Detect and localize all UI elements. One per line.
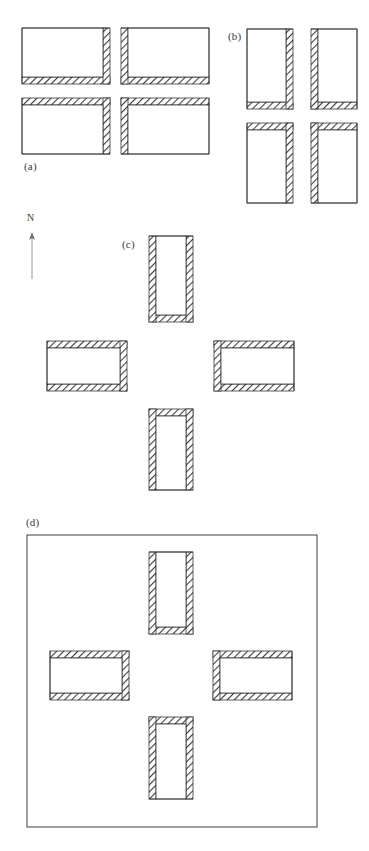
wall-left	[311, 123, 318, 203]
unit-a2	[121, 28, 209, 84]
wall-top	[121, 98, 209, 105]
unit-interior	[22, 105, 103, 154]
unit-interior	[128, 105, 209, 154]
wall-top	[50, 651, 129, 658]
wall-bottom	[121, 77, 209, 84]
unit-interior	[128, 28, 209, 77]
unit-d-south	[149, 717, 193, 799]
wall-left	[121, 98, 128, 154]
wall-left	[149, 236, 156, 322]
wall-left	[149, 717, 156, 799]
wall-right	[122, 651, 129, 700]
unit-interior	[156, 236, 186, 315]
unit-interior	[47, 348, 120, 384]
wall-right	[186, 236, 193, 322]
wall-left	[121, 28, 128, 84]
wall-bottom	[213, 693, 292, 700]
unit-d-north	[149, 552, 193, 634]
unit-interior	[247, 29, 286, 102]
site-plan-drawing	[0, 0, 369, 851]
unit-d-east	[213, 651, 292, 700]
wall-right	[186, 717, 193, 799]
wall-top	[214, 341, 294, 348]
unit-b1	[247, 29, 293, 109]
unit-b2	[311, 29, 357, 109]
unit-c-south	[149, 409, 193, 490]
figure-root: (a) (b) (c) (d) N	[0, 0, 369, 851]
wall-right	[286, 29, 293, 109]
unit-interior	[318, 130, 357, 203]
wall-right	[103, 98, 110, 154]
unit-c-north	[149, 236, 193, 322]
wall-top	[22, 98, 110, 105]
unit-b3	[247, 123, 293, 203]
unit-interior	[247, 130, 286, 203]
unit-interior	[318, 29, 357, 102]
wall-right	[186, 409, 193, 490]
unit-interior	[156, 416, 186, 490]
unit-a1	[22, 28, 110, 84]
unit-b4	[311, 123, 357, 203]
north-letter: N	[27, 212, 34, 223]
wall-bottom	[22, 77, 110, 84]
panel-label-b: (b)	[228, 30, 241, 42]
north-arrow-glyph	[27, 223, 43, 281]
unit-interior	[50, 658, 122, 693]
wall-right	[186, 552, 193, 634]
unit-interior	[22, 28, 103, 77]
unit-a4	[121, 98, 209, 154]
unit-c-east	[214, 341, 294, 391]
wall-bottom	[47, 384, 127, 391]
wall-left	[213, 651, 220, 700]
wall-left	[149, 409, 156, 490]
unit-interior	[156, 724, 186, 799]
wall-left	[214, 341, 221, 391]
panel-d	[27, 535, 317, 827]
panel-a	[22, 28, 209, 154]
wall-right	[286, 123, 293, 203]
wall-top	[213, 651, 292, 658]
wall-top	[47, 341, 127, 348]
north-arrow-icon: N	[27, 212, 43, 281]
unit-a3	[22, 98, 110, 154]
unit-interior	[221, 348, 294, 384]
wall-left	[149, 552, 156, 634]
wall-right	[120, 341, 127, 391]
unit-d-west	[50, 651, 129, 700]
unit-interior	[220, 658, 292, 693]
panel-c	[47, 236, 294, 490]
wall-right	[103, 28, 110, 84]
panel-b	[247, 29, 357, 203]
unit-interior	[156, 552, 186, 627]
panel-label-c: (c)	[122, 238, 135, 250]
wall-bottom	[214, 384, 294, 391]
wall-bottom	[50, 693, 129, 700]
unit-c-west	[47, 341, 127, 391]
panel-label-a: (a)	[24, 160, 37, 172]
panel-label-d: (d)	[26, 516, 39, 528]
wall-left	[311, 29, 318, 109]
